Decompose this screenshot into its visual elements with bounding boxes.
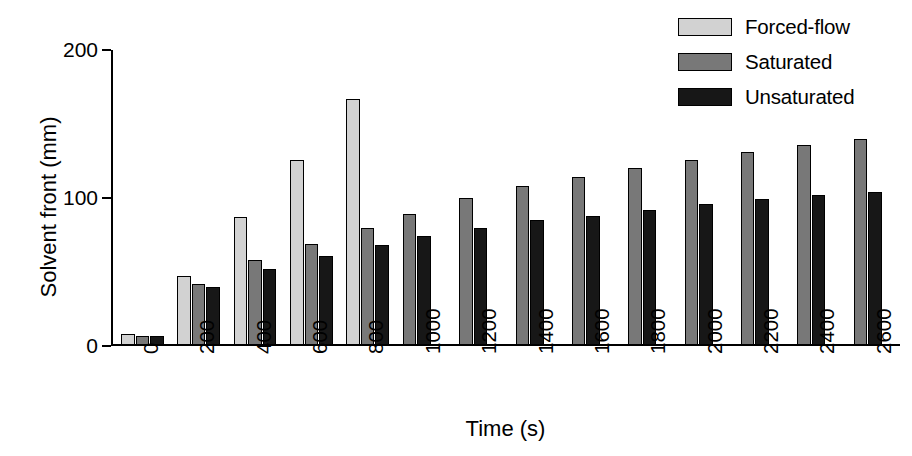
bar-group <box>403 50 431 346</box>
bar[interactable] <box>290 160 304 346</box>
bar[interactable] <box>741 152 755 346</box>
plot-area <box>111 50 900 346</box>
bar-group <box>741 50 769 346</box>
x-axis-tick-label: 1800 <box>648 308 669 354</box>
bar-group <box>797 50 825 346</box>
legend-entry[interactable]: Forced-flow <box>678 12 904 42</box>
bar-group <box>516 50 544 346</box>
bar-group <box>121 50 164 346</box>
bar-chart-figure: Forced-flowSaturatedUnsaturated 0100200 … <box>0 0 912 456</box>
x-axis-tick-label: 1000 <box>423 308 444 354</box>
x-axis-tick-label: 2600 <box>874 308 895 354</box>
bar-group <box>459 50 487 346</box>
x-axis-tick-label: 600 <box>310 320 331 354</box>
x-axis-tick-label: 400 <box>254 320 275 354</box>
bar[interactable] <box>234 217 248 346</box>
bar[interactable] <box>797 145 811 346</box>
y-axis-tick-label: 0 <box>86 335 98 356</box>
x-axis-title: Time (s) <box>111 418 900 440</box>
bar[interactable] <box>403 214 417 346</box>
bar[interactable] <box>685 160 699 346</box>
y-axis-tick-label: 100 <box>63 187 98 208</box>
bar[interactable] <box>572 177 586 346</box>
bar-group <box>177 50 220 346</box>
x-axis-tick-label: 2000 <box>705 308 726 354</box>
legend-label: Forced-flow <box>745 17 850 38</box>
bar-group <box>572 50 600 346</box>
x-axis-tick-label: 0 <box>141 343 162 354</box>
x-axis-tick-label: 1600 <box>592 308 613 354</box>
bar-group <box>628 50 656 346</box>
x-axis-tick-label: 1200 <box>479 308 500 354</box>
bar-group <box>854 50 882 346</box>
bar[interactable] <box>854 139 868 346</box>
bar[interactable] <box>516 186 530 346</box>
x-axis-tick-label: 1400 <box>536 308 557 354</box>
x-axis-tick-label: 200 <box>197 320 218 354</box>
bar-group <box>234 50 277 346</box>
bar[interactable] <box>459 198 473 346</box>
y-axis-title: Solvent front (mm) <box>38 82 60 332</box>
bar[interactable] <box>628 168 642 346</box>
x-axis-tick-label: 2200 <box>761 308 782 354</box>
x-axis-tick-label: 800 <box>366 320 387 354</box>
bar[interactable] <box>346 99 360 346</box>
x-axis-tick-label: 2400 <box>817 308 838 354</box>
y-axis-tick <box>102 49 111 51</box>
bar-group <box>290 50 333 346</box>
bar[interactable] <box>177 276 191 346</box>
bar-group <box>346 50 389 346</box>
y-axis-tick <box>102 345 111 347</box>
legend-swatch <box>678 18 732 36</box>
bar-group <box>685 50 713 346</box>
y-axis-tick-label: 200 <box>63 39 98 60</box>
x-axis-tick-labels: 0200400600800100012001400160018002000220… <box>111 346 900 418</box>
y-axis-tick <box>102 197 111 199</box>
